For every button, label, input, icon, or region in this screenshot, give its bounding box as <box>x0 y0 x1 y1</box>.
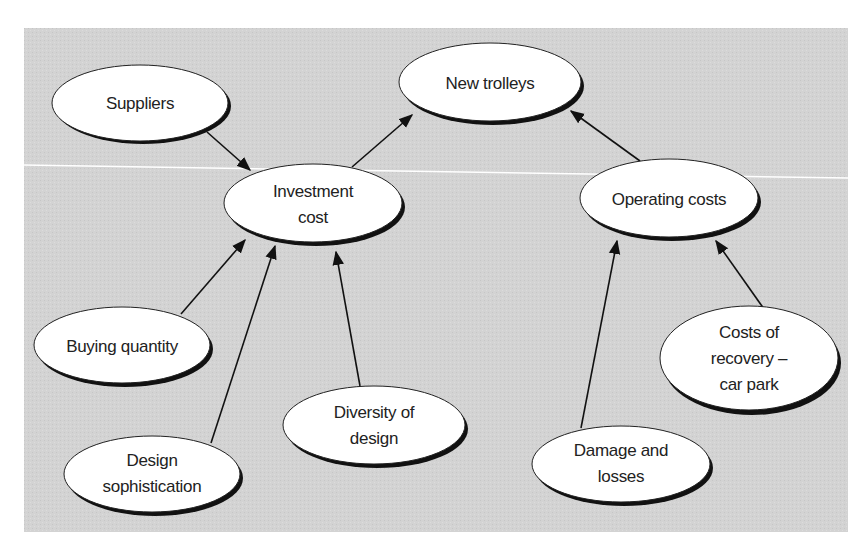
node-buying-quantity[interactable]: Buying quantity <box>34 307 213 387</box>
node-label-line-1: Investment <box>273 182 354 201</box>
node-design-sophistication[interactable]: Design sophistication <box>64 436 243 516</box>
node-new-trolleys[interactable]: New trolleys <box>399 43 584 125</box>
node-label-line-1: Costs of <box>719 323 780 342</box>
node-label-line-2: losses <box>598 467 644 486</box>
node-label-line-1: Damage and <box>574 441 668 460</box>
node-investment-cost[interactable]: Investment cost <box>224 164 405 246</box>
node-label-line-1: Design <box>126 451 177 470</box>
node-label: Operating costs <box>612 190 727 209</box>
node-label-line-2: cost <box>298 208 329 227</box>
node-damage-and-losses[interactable]: Damage and losses <box>532 426 713 506</box>
node-diversity-of-design[interactable]: Diversity of design <box>283 386 468 468</box>
node-label-line-2: design <box>350 429 398 448</box>
node-label: New trolleys <box>446 74 535 93</box>
node-label-line-2: sophistication <box>103 477 202 496</box>
influence-diagram: Suppliers New trolleys Investment cost O… <box>0 0 867 552</box>
node-label: Buying quantity <box>66 337 179 356</box>
node-label-line-3: car park <box>719 375 779 394</box>
node-label-line-1: Diversity of <box>334 403 415 422</box>
node-label: Suppliers <box>106 94 174 113</box>
node-operating-costs[interactable]: Operating costs <box>580 159 761 241</box>
node-label-line-2: recovery – <box>711 349 788 368</box>
